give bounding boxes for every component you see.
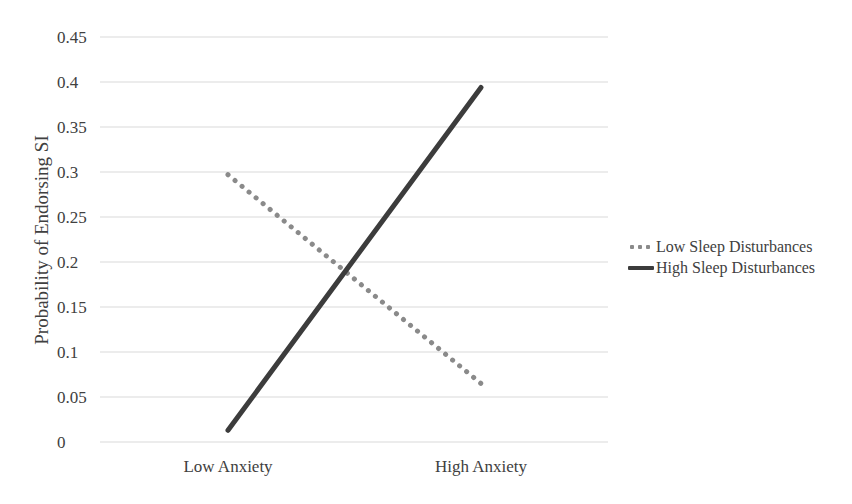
series-high-sleep-line xyxy=(228,87,481,430)
gridlines xyxy=(100,37,608,442)
y-tick-label: 0.2 xyxy=(57,253,78,272)
legend-label: High Sleep Disturbances xyxy=(656,257,815,278)
y-tick-label: 0.05 xyxy=(57,388,87,407)
legend-item-low-sleep: Low Sleep Disturbances xyxy=(628,236,815,257)
x-axis-ticks: Low AnxietyHigh Anxiety xyxy=(183,457,527,476)
y-axis-ticks: 00.050.10.150.20.250.30.350.40.45 xyxy=(57,28,87,452)
x-tick-label: High Anxiety xyxy=(435,457,528,476)
legend-label: Low Sleep Disturbances xyxy=(656,236,812,257)
y-tick-label: 0 xyxy=(57,433,66,452)
y-tick-label: 0.1 xyxy=(57,343,78,362)
solid-line-swatch-icon xyxy=(628,263,654,273)
series-lines xyxy=(228,87,481,430)
y-tick-label: 0.3 xyxy=(57,163,78,182)
y-tick-label: 0.35 xyxy=(57,118,87,137)
y-tick-label: 0.25 xyxy=(57,208,87,227)
y-tick-label: 0.4 xyxy=(57,73,79,92)
legend: Low Sleep Disturbances High Sleep Distur… xyxy=(628,236,815,278)
y-tick-label: 0.15 xyxy=(57,298,87,317)
dotted-line-swatch-icon xyxy=(628,242,654,252)
y-tick-label: 0.45 xyxy=(57,28,87,47)
x-tick-label: Low Anxiety xyxy=(183,457,273,476)
y-axis-title: Probability of Endorsing SI xyxy=(31,135,52,345)
legend-item-high-sleep: High Sleep Disturbances xyxy=(628,257,815,278)
